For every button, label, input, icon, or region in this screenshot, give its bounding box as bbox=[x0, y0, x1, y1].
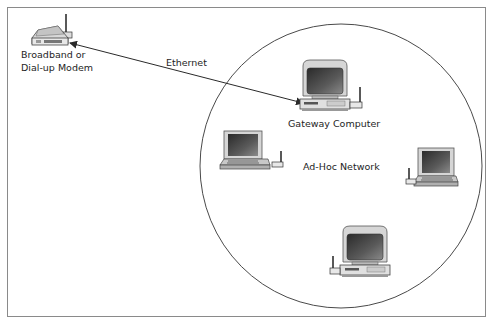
modem-label-line1: Broadband or bbox=[21, 48, 86, 61]
ethernet-link bbox=[70, 43, 303, 103]
ethernet-label: Ethernet bbox=[166, 56, 207, 69]
modem-icon bbox=[32, 14, 72, 45]
laptop-icon bbox=[220, 131, 283, 169]
desktop-computer-icon bbox=[300, 60, 362, 111]
desktop-computer-icon bbox=[330, 226, 390, 277]
adhoc-network-label: Ad-Hoc Network bbox=[303, 160, 380, 173]
gateway-computer-label: Gateway Computer bbox=[288, 117, 380, 130]
laptop-icon bbox=[406, 148, 458, 186]
modem-label-line2: Dial-up Modem bbox=[21, 61, 93, 74]
